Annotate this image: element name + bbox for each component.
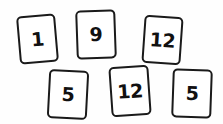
number-card[interactable]: 12 (141, 15, 183, 66)
number-card[interactable]: 9 (75, 9, 117, 59)
card-value: 12 (149, 30, 176, 51)
card-value: 1 (30, 29, 44, 49)
card-value: 5 (185, 84, 198, 103)
number-card[interactable]: 5 (171, 68, 213, 118)
card-value: 5 (61, 85, 75, 105)
card-value: 9 (89, 25, 102, 44)
number-card[interactable]: 1 (16, 13, 59, 64)
number-card[interactable]: 12 (108, 65, 151, 118)
number-card[interactable]: 5 (47, 69, 90, 120)
card-board: 1 9 12 5 12 5 (0, 0, 223, 124)
card-value: 12 (117, 81, 144, 102)
